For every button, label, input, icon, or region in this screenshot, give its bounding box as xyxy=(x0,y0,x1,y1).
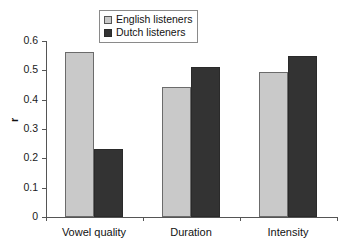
x-category-label-duration: Duration xyxy=(170,225,212,239)
x-category-label-vowel-quality: Vowel quality xyxy=(62,225,126,239)
y-tick-2: 0.2 xyxy=(42,158,46,159)
x-tick-2 xyxy=(240,217,241,221)
x-axis-line xyxy=(46,217,338,218)
bar-chart: English listeners Dutch listeners r 0.6 … xyxy=(0,0,345,247)
x-category-label-intensity: Intensity xyxy=(268,225,309,239)
plot-area: 0.6 0.5 0.4 0.3 0.2 0.1 0 xyxy=(46,41,338,217)
legend-swatch-english-icon xyxy=(104,16,112,24)
bar-english-intensity xyxy=(259,72,288,217)
y-tick-label-1: 0.1 xyxy=(23,181,38,194)
y-tick-label-4: 0.4 xyxy=(23,93,38,106)
y-tick-label-5: 0.5 xyxy=(23,63,38,76)
y-axis-title: r xyxy=(8,118,20,122)
bar-dutch-intensity xyxy=(288,56,317,217)
y-tick-label-3: 0.3 xyxy=(23,122,38,135)
legend-label-dutch: Dutch listeners xyxy=(116,26,185,39)
legend-label-english: English listeners xyxy=(116,13,192,26)
bar-dutch-vowel-quality xyxy=(94,149,123,217)
x-tick-3 xyxy=(337,217,338,221)
legend-item-dutch: Dutch listeners xyxy=(104,26,192,39)
y-tick-5: 0.5 xyxy=(42,70,46,71)
y-tick-label-6: 0.6 xyxy=(23,34,38,47)
y-tick-6: 0.6 xyxy=(42,41,46,42)
y-tick-label-2: 0.2 xyxy=(23,151,38,164)
bar-english-vowel-quality xyxy=(65,52,94,217)
y-tick-label-0: 0 xyxy=(32,210,38,223)
x-tick-1 xyxy=(143,217,144,221)
bar-dutch-duration xyxy=(191,67,220,217)
legend-swatch-dutch-icon xyxy=(104,29,112,37)
legend-item-english: English listeners xyxy=(104,13,192,26)
chart-legend: English listeners Dutch listeners xyxy=(99,10,198,43)
y-tick-4: 0.4 xyxy=(42,100,46,101)
y-tick-1: 0.1 xyxy=(42,188,46,189)
bar-english-duration xyxy=(162,87,191,217)
y-axis-line xyxy=(46,41,47,218)
y-tick-3: 0.3 xyxy=(42,129,46,130)
x-tick-0 xyxy=(46,217,47,221)
